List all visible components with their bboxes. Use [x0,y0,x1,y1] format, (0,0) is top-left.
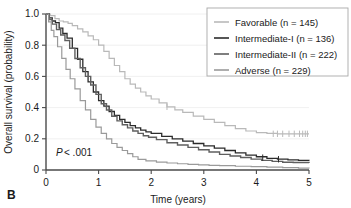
legend-label-0[interactable]: Favorable (n = 145) [235,17,318,28]
survival-chart-figure: 00.20.40.60.81.0 012345 Overall survival… [0,0,351,208]
y-tick-label: 0 [33,164,39,175]
legend-label-3[interactable]: Adverse (n = 229) [235,65,311,76]
x-tick-label: 0 [43,177,49,188]
y-axis-ticks: 00.20.40.60.81.0 [25,8,46,175]
y-tick-label: 0.6 [25,71,39,82]
panel-label: B [7,188,16,202]
legend-label-1[interactable]: Intermediate-I (n = 136) [235,33,335,44]
chart-legend: Favorable (n = 145)Intermediate-I (n = 1… [207,8,348,76]
x-tick-label: 4 [254,177,260,188]
x-tick-label: 1 [96,177,102,188]
x-axis-ticks: 012345 [43,170,312,188]
y-axis-title: Overall survival (probability) [3,30,14,153]
x-tick-label: 3 [201,177,207,188]
p-value-annotation: P < .001 [56,147,93,158]
x-axis-title: Time (years) [150,194,206,205]
y-tick-label: 1.0 [25,8,39,19]
y-tick-label: 0.4 [25,102,39,113]
y-tick-label: 0.8 [25,40,39,51]
x-tick-label: 5 [306,177,312,188]
y-tick-label: 0.2 [25,133,39,144]
p-value-text: < .001 [64,147,93,158]
p-value-symbol: P [56,147,63,158]
x-tick-label: 2 [148,177,154,188]
legend-label-2[interactable]: Intermediate-II (n = 222) [235,49,337,60]
chart-canvas: 00.20.40.60.81.0 012345 Overall survival… [0,0,351,208]
